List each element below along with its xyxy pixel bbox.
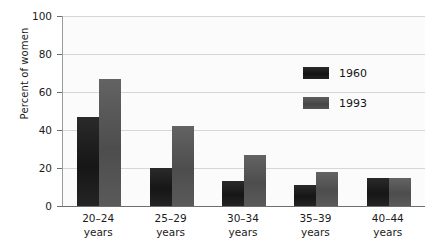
y-axis-title: Percent of women	[19, 4, 30, 144]
legend: 1960 1993	[303, 66, 367, 126]
y-tick-mark-40	[57, 130, 62, 131]
y-tick-label-40: 40	[0, 124, 52, 136]
x-axis-line	[62, 206, 425, 207]
bar-1993-25–29	[172, 126, 194, 206]
bar-1960-25–29	[150, 168, 172, 206]
gridline-100	[63, 16, 425, 17]
x-category-label-20–24: 20–24years	[58, 212, 138, 239]
y-tick-label-20: 20	[0, 162, 52, 174]
y-tick-label-0: 0	[0, 200, 52, 212]
x-category-label-30–34: 30–34years	[203, 212, 283, 239]
legend-label-1960: 1960	[339, 67, 367, 80]
legend-item-1960: 1960	[303, 66, 367, 80]
y-tick-mark-0	[57, 206, 62, 207]
y-tick-mark-80	[57, 54, 62, 55]
plot-area	[62, 16, 425, 206]
bar-1993-20–24	[99, 79, 121, 206]
bar-1960-30–34	[222, 181, 244, 206]
y-tick-mark-20	[57, 168, 62, 169]
bar-1960-20–24	[77, 117, 99, 206]
bar-chart: Percent of women 020406080100 20–24years…	[0, 0, 435, 248]
legend-label-1993: 1993	[339, 97, 367, 110]
legend-swatch-1993-icon	[303, 97, 329, 109]
bar-1993-40–44	[389, 178, 411, 207]
bar-1960-35–39	[294, 185, 316, 206]
y-tick-label-60: 60	[0, 86, 52, 98]
y-tick-mark-100	[57, 16, 62, 17]
bar-1993-30–34	[244, 155, 266, 206]
y-tick-label-80: 80	[0, 48, 52, 60]
y-tick-label-100: 100	[0, 10, 52, 22]
gridline-80	[63, 54, 425, 55]
bar-1960-40–44	[367, 178, 389, 207]
legend-swatch-1960-icon	[303, 67, 329, 79]
legend-item-1993: 1993	[303, 96, 367, 110]
y-tick-mark-60	[57, 92, 62, 93]
bar-1993-35–39	[316, 172, 338, 206]
x-category-label-35–39: 35–39years	[275, 212, 355, 239]
x-category-label-25–29: 25–29years	[131, 212, 211, 239]
x-category-label-40–44: 40–44years	[348, 212, 428, 239]
